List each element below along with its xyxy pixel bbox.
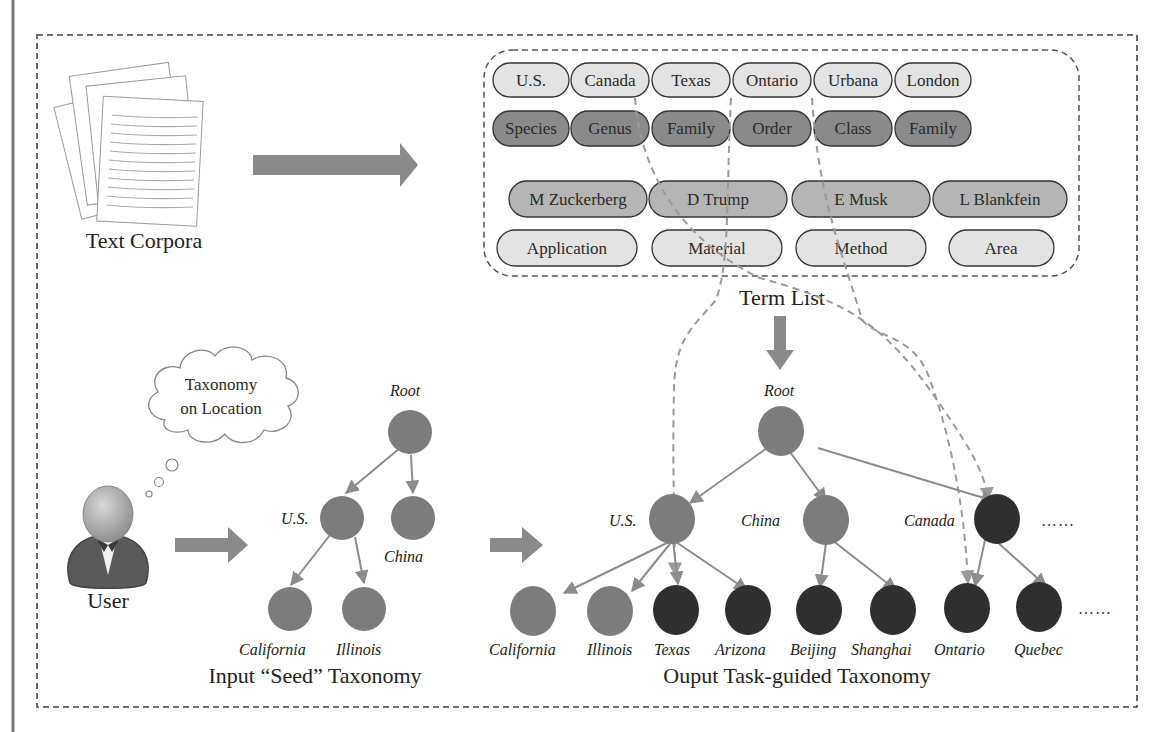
arrow-down-icon <box>766 316 794 370</box>
input-taxonomy-caption: Input “Seed” Taxonomy <box>208 663 421 688</box>
tree-node <box>391 496 435 540</box>
more-children-ellipsis: …… <box>1041 512 1075 529</box>
svg-text:Illinois: Illinois <box>586 641 632 658</box>
term-pill[interactable]: Method <box>796 230 926 266</box>
term-pill[interactable]: Species <box>493 111 569 146</box>
svg-text:China: China <box>741 512 780 529</box>
tree-node <box>1016 582 1062 632</box>
svg-text:U.S.: U.S. <box>609 512 637 529</box>
svg-text:Urbana: Urbana <box>828 71 878 90</box>
tree-node <box>653 585 699 635</box>
term-pill[interactable]: Family <box>652 111 730 146</box>
tree-node <box>342 587 386 631</box>
term-list-caption: Term List <box>739 285 825 310</box>
svg-text:Texas: Texas <box>654 641 690 658</box>
svg-text:Class: Class <box>835 119 872 138</box>
svg-text:M Zuckerberg: M Zuckerberg <box>529 190 627 209</box>
tree-node <box>803 495 849 545</box>
arrow-right-icon <box>490 527 543 563</box>
thought-cloud: Taxonomy on Location <box>146 347 298 497</box>
svg-text:Canada: Canada <box>585 71 636 90</box>
svg-text:Family: Family <box>909 119 958 138</box>
documents-icon <box>54 62 203 226</box>
svg-text:Genus: Genus <box>588 119 631 138</box>
term-row-3: M Zuckerberg D Trump E Musk L Blankfein <box>509 181 1067 217</box>
tree-node <box>587 586 633 636</box>
tree-node <box>510 586 556 636</box>
term-pill[interactable]: Class <box>814 111 892 146</box>
term-row-1: U.S. Canada Texas Ontario Urbana London <box>493 63 971 97</box>
term-row-2: Species Genus Family Order Class Family <box>493 111 971 146</box>
svg-text:U.S.: U.S. <box>281 510 309 527</box>
svg-text:China: China <box>384 548 423 565</box>
tree-node <box>725 585 771 635</box>
svg-text:California: California <box>489 641 556 659</box>
term-pill[interactable]: Order <box>733 111 811 146</box>
svg-text:on Location: on Location <box>180 399 262 418</box>
term-pill[interactable]: Ontario <box>733 63 811 97</box>
svg-text:Material: Material <box>688 239 746 258</box>
term-pill[interactable]: D Trump <box>649 181 787 217</box>
svg-text:Shanghai: Shanghai <box>851 641 911 659</box>
svg-text:Application: Application <box>527 239 608 258</box>
svg-text:London: London <box>907 71 960 90</box>
svg-text:L Blankfein: L Blankfein <box>959 190 1041 209</box>
output-task-guided-taxonomy: Root U.S. China Canada …… California Ill… <box>489 382 1112 659</box>
term-pill[interactable]: Area <box>949 230 1054 266</box>
term-pill[interactable]: London <box>895 63 971 97</box>
svg-text:Root: Root <box>763 382 795 399</box>
svg-text:Family: Family <box>667 119 716 138</box>
svg-text:Quebec: Quebec <box>1014 641 1063 658</box>
svg-text:Arizona: Arizona <box>714 641 766 658</box>
term-pill[interactable]: Texas <box>652 63 730 97</box>
tree-node <box>268 587 312 631</box>
tree-node <box>388 410 432 454</box>
tree-node <box>320 496 364 540</box>
term-pill[interactable]: U.S. <box>493 63 569 97</box>
arrow-right-icon <box>175 527 248 563</box>
term-pill[interactable]: Urbana <box>814 63 892 97</box>
term-pill[interactable]: M Zuckerberg <box>509 181 647 217</box>
term-pill[interactable]: L Blankfein <box>933 181 1067 217</box>
svg-text:Texas: Texas <box>671 71 710 90</box>
term-row-4: Application Material Method Area <box>497 230 1054 266</box>
text-corpora-caption: Text Corpora <box>86 228 203 253</box>
tree-node <box>944 583 990 633</box>
svg-text:Illinois: Illinois <box>335 641 381 658</box>
svg-text:Beijing: Beijing <box>790 641 836 659</box>
user-label: User <box>87 588 129 613</box>
svg-text:Canada: Canada <box>904 512 955 529</box>
svg-text:E Musk: E Musk <box>834 190 888 209</box>
svg-text:Root: Root <box>389 382 421 399</box>
more-leaves-ellipsis: …… <box>1078 600 1112 617</box>
tree-node <box>758 406 804 456</box>
term-pill[interactable]: Canada <box>571 63 649 97</box>
tree-node <box>796 585 842 635</box>
svg-text:Area: Area <box>984 239 1017 258</box>
term-pill[interactable]: Material <box>652 230 782 266</box>
svg-text:Order: Order <box>752 119 792 138</box>
svg-text:Ontario: Ontario <box>746 71 798 90</box>
term-pill[interactable]: Application <box>497 230 637 266</box>
output-taxonomy-caption: Ouput Task-guided Taxonomy <box>663 663 930 688</box>
term-pill[interactable]: E Musk <box>792 181 930 217</box>
tree-node <box>870 585 916 635</box>
svg-text:D Trump: D Trump <box>687 190 749 209</box>
tree-node <box>974 494 1020 544</box>
svg-text:Taxonomy: Taxonomy <box>185 375 258 394</box>
svg-text:California: California <box>239 641 306 659</box>
svg-text:U.S.: U.S. <box>516 71 546 90</box>
taxonomy-diagram: Text Corpora U.S. Canada Texas Ontario U… <box>0 0 1168 732</box>
arrow-right-icon <box>253 143 418 187</box>
svg-text:Ontario: Ontario <box>934 641 985 658</box>
term-pill[interactable]: Family <box>895 111 971 146</box>
tree-node <box>649 494 695 544</box>
svg-text:Species: Species <box>505 119 557 138</box>
user-icon <box>68 486 148 588</box>
